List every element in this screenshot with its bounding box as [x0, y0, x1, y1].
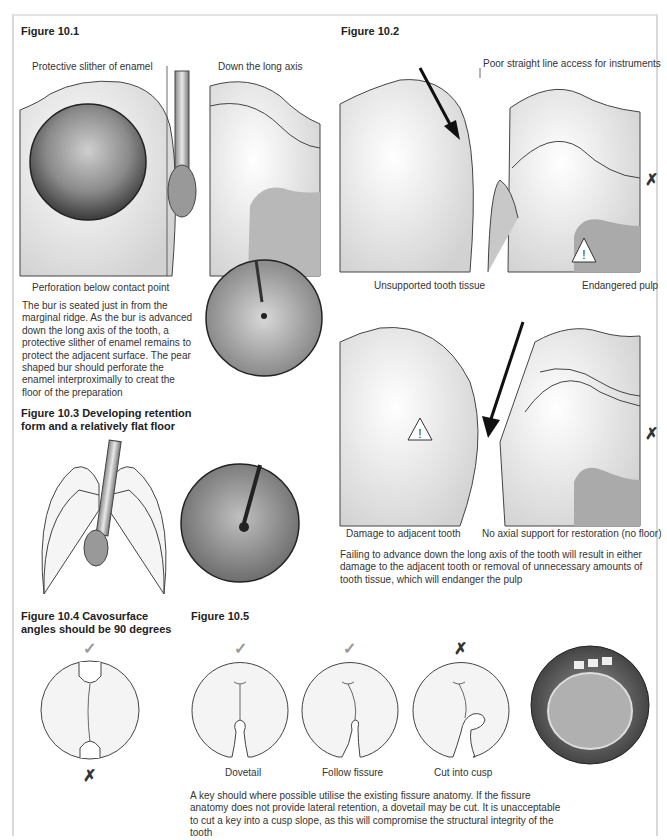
cut-into-cusp-illustration [411, 662, 511, 758]
figure-10-5-caption: A key should where possible utilise the … [190, 790, 570, 840]
label-cut-into-cusp: Cut into cusp [434, 767, 492, 779]
figure-10-3-title-line2: form and a relatively flat floor [21, 420, 175, 433]
figure-10-4-title: Figure 10.4 Cavosurface [21, 610, 148, 623]
svg-text:!: ! [582, 248, 585, 262]
figure-10-3-photo [180, 461, 300, 585]
figure-10-2-caption: Failing to advance down the long axis of… [340, 549, 652, 586]
figure-10-4-illustration [38, 660, 142, 760]
matrix-band-photo [530, 645, 650, 765]
figure-10-4-title-line2: angles should be 90 degrees [21, 623, 171, 636]
label-unsupported-tissue: Unsupported tooth tissue [374, 280, 485, 292]
cross-mark-10-4: ✗ [83, 768, 96, 784]
figure-10-2-bottom-illustration: ! [340, 322, 640, 526]
figure-10-3-illustration [34, 440, 164, 594]
svg-text:!: ! [418, 427, 421, 441]
cross-mark-top: ✗ [645, 172, 658, 188]
label-damage-adjacent: Damage to adjacent tooth [346, 528, 461, 540]
label-perforation: Perforation below contact point [32, 282, 169, 294]
label-endangered-pulp: Endangered pulp [582, 280, 658, 292]
figure-10-1-caption: The bur is seated just in from the margi… [22, 300, 197, 399]
dovetail-illustration [190, 662, 290, 758]
cross-mark-cut-into-cusp: ✗ [454, 641, 467, 657]
label-dovetail: Dovetail [225, 767, 261, 779]
figure-10-1-title: Figure 10.1 [21, 25, 79, 38]
figure-10-3-title: Figure 10.3 Developing retention [21, 407, 192, 420]
follow-fissure-illustration [300, 662, 400, 758]
figure-10-1-illustration [20, 66, 320, 276]
figure-10-2-title: Figure 10.2 [341, 25, 399, 38]
check-mark-follow-fissure: ✓ [343, 641, 356, 657]
cross-mark-bottom: ✗ [645, 426, 658, 442]
check-mark-dovetail: ✓ [234, 641, 247, 657]
label-no-axial-support: No axial support for restoration (no flo… [482, 528, 662, 540]
figure-10-1-photo-inset [204, 258, 324, 378]
figure-10-2-top-illustration: ! [340, 68, 640, 272]
label-follow-fissure: Follow fissure [322, 767, 383, 779]
check-mark-top: ✓ [83, 641, 96, 657]
figure-10-5-title: Figure 10.5 [191, 610, 249, 623]
